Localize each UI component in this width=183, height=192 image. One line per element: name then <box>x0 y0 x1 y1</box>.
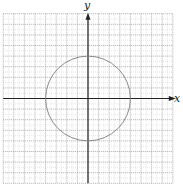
x-axis-label: x <box>174 93 180 104</box>
coordinate-plane <box>0 0 183 192</box>
axes <box>3 13 176 184</box>
y-axis-label: y <box>84 0 90 11</box>
